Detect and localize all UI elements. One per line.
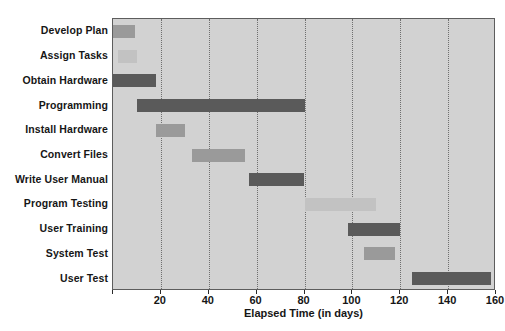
gantt-bar [348,223,401,236]
gridline-60 [257,19,258,289]
gantt-bar [249,173,304,186]
task-label: User Test [0,272,108,284]
task-label: Install Hardware [0,123,108,135]
task-label: Write User Manual [0,173,108,185]
gantt-bar [192,149,245,162]
task-label: Obtain Hardware [0,74,108,86]
gridline-20 [161,19,162,289]
gantt-bar [364,247,395,260]
x-tick-label: 80 [284,294,324,306]
task-label: Develop Plan [0,24,108,36]
gantt-bar [412,272,491,285]
x-tick-label: 20 [140,294,180,306]
task-label-column: Develop PlanAssign TasksObtain HardwareP… [0,18,108,290]
x-axis-title: Elapsed Time (in days) [112,307,495,319]
x-tick-0 [112,290,113,294]
gantt-bar [118,50,137,63]
gridline-100 [352,19,353,289]
x-tick-label: 140 [427,294,467,306]
x-tick-label: 100 [331,294,371,306]
task-label: System Test [0,247,108,259]
task-label: Programming [0,99,108,111]
gantt-bar [305,198,377,211]
task-label: Convert Files [0,148,108,160]
chart-plot-area [112,18,495,290]
task-label: Program Testing [0,197,108,209]
gantt-bar [137,99,305,112]
gantt-bar [113,25,135,38]
task-label: User Training [0,222,108,234]
x-tick-label: 60 [236,294,276,306]
gridline-120 [400,19,401,289]
gridline-140 [448,19,449,289]
x-tick-label: 120 [379,294,419,306]
gridline-80 [305,19,306,289]
gantt-chart: Develop PlanAssign TasksObtain HardwareP… [0,0,505,331]
x-tick-label: 160 [475,294,505,306]
x-tick-label: 40 [188,294,228,306]
task-label: Assign Tasks [0,49,108,61]
gantt-bar [156,124,185,137]
gantt-bar [113,74,156,87]
